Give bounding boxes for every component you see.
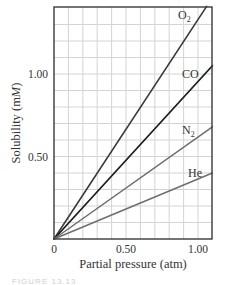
x-tick-label: 0 [51,243,57,255]
series-line-co [54,66,212,239]
x-axis-title: Partial pressure (atm) [79,257,187,271]
series-label-co: CO [182,67,199,81]
y-axis-title-end: ) [9,83,23,87]
x-tick-label: 1.00 [188,243,208,255]
y-axis-ticks: 0.501.00 [28,68,48,163]
x-axis-ticks: 00.501.00 [51,243,208,255]
series-label-he: He [188,166,202,180]
figure-caption: FIGURE 13.13 [12,277,76,285]
series-label-o2: O2 [178,8,191,24]
y-axis-title-main: Solubility (m [9,97,23,164]
y-axis-title: Solubility (mM) [9,83,23,164]
x-tick-label: 0.50 [116,243,136,255]
y-tick-label: 0.50 [28,151,48,163]
series-label-n2: N2 [182,123,195,139]
y-tick-label: 1.00 [28,68,48,80]
solubility-chart: 00.501.00 0.501.00 O2CON2He Partial pres… [0,0,228,285]
y-axis-title-unit: M [9,86,23,98]
